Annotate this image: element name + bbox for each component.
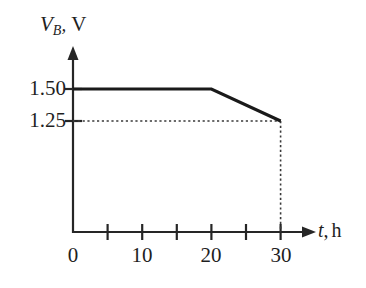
x-axis-unit: h (332, 219, 342, 241)
y-axis-separator: , (61, 14, 66, 35)
y-axis-symbol: V (40, 12, 53, 36)
x-axis-separator: , (324, 219, 329, 241)
y-axis (68, 46, 79, 233)
y-axis-title: VB,V (40, 14, 86, 38)
y-tick-label-1-50: 1.50 (12, 78, 66, 99)
x-axis-arrow-icon (302, 227, 316, 238)
data-series-battery-voltage (73, 89, 281, 121)
x-tick-label-20: 20 (191, 245, 231, 266)
y-tick-label-1-25: 1.25 (12, 110, 66, 131)
y-axis-unit: V (71, 12, 86, 36)
chart-figure: VB,V t,h 1.50 1.25 0 10 20 30 (0, 0, 366, 288)
x-axis-title: t,h (318, 220, 342, 240)
x-tick-label-10: 10 (122, 245, 162, 266)
y-axis-arrow-icon (68, 46, 79, 60)
x-tick-label-30: 30 (261, 245, 301, 266)
x-tick-label-0: 0 (53, 245, 93, 266)
